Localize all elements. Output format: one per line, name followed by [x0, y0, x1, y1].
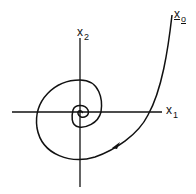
- x1-symbol: x: [166, 103, 172, 117]
- x2-axis-label: x2: [77, 26, 88, 38]
- x1-axis-label: x1: [166, 104, 177, 116]
- trajectory-curve: [37, 15, 172, 159]
- x1-subscript: 1: [173, 110, 178, 120]
- initial-state-label: xo: [174, 8, 185, 20]
- diagram-canvas: [0, 0, 196, 194]
- initial-state-subscript: o: [181, 14, 186, 24]
- x2-subscript: 2: [84, 32, 89, 42]
- phase-portrait-diagram: xo x2 x1: [0, 0, 196, 194]
- initial-state-symbol: x: [174, 7, 180, 21]
- x2-symbol: x: [77, 25, 83, 39]
